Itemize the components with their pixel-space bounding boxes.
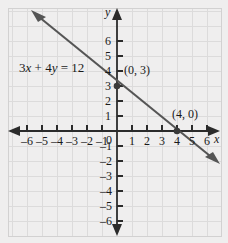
point-label-y-intercept: (0, 3) [124, 64, 150, 76]
x-tick-label--6: –6 [21, 135, 33, 147]
equation-plus: + [35, 60, 42, 75]
equation-label: 3x + 4y = 12 [19, 61, 84, 74]
graph-figure: 3x + 4y = 12 (0, 3) (4, 0) y x 0 –6 –5 –… [0, 0, 228, 243]
y-tick-label--2: –2 [100, 155, 112, 167]
x-axis-label: x [214, 133, 219, 145]
y-tick-label--1: –1 [100, 140, 112, 152]
x-tick-label--5: –5 [36, 135, 48, 147]
x-tick-label--2: –2 [81, 135, 93, 147]
y-tick-label--6: –6 [100, 215, 112, 227]
x-tick-label-5: 5 [189, 135, 195, 147]
equation-equals: = [61, 60, 68, 75]
equation-term2-var: y [52, 60, 58, 75]
y-tick-label--5: –5 [100, 200, 112, 212]
equation-constant: 12 [71, 60, 84, 75]
x-tick-label--4: –4 [51, 135, 63, 147]
y-tick-label-6: 6 [105, 35, 111, 47]
x-tick-label--3: –3 [66, 135, 78, 147]
y-tick-label-4: 4 [105, 65, 111, 77]
y-axis [112, 8, 122, 236]
x-tick-label-4: 4 [174, 135, 180, 147]
y-tick-label-1: 1 [105, 110, 111, 122]
y-tick-label--4: –4 [100, 185, 112, 197]
x-tick-label-2: 2 [144, 135, 150, 147]
y-tick-label-3: 3 [105, 80, 111, 92]
plot-border [8, 8, 221, 236]
y-tick-label-2: 2 [105, 95, 111, 107]
point-label-x-intercept: (4, 0) [172, 108, 198, 120]
equation-term1-var: x [26, 60, 32, 75]
grid-lines [8, 8, 221, 236]
point-marker-y-intercept [114, 83, 121, 90]
y-axis-label: y [105, 6, 110, 18]
x-tick-label-1: 1 [129, 135, 135, 147]
x-tick-label-3: 3 [159, 135, 165, 147]
coordinate-plane-svg [0, 0, 228, 243]
y-tick-label-5: 5 [105, 50, 111, 62]
x-tick-label-6: 6 [204, 135, 210, 147]
y-tick-label--3: –3 [100, 170, 112, 182]
